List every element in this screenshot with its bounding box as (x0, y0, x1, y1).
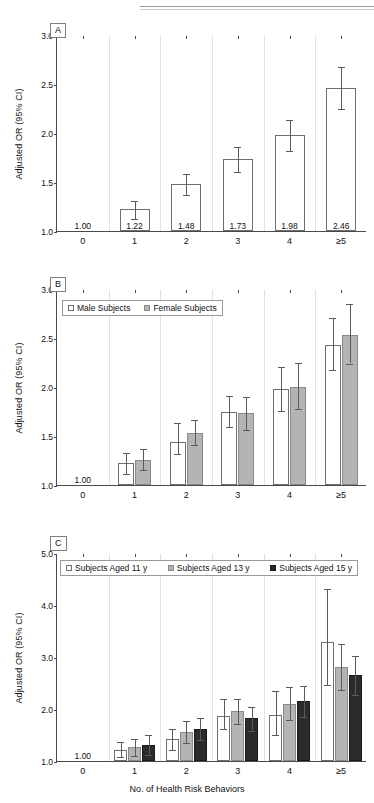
error-bar-cap (226, 427, 233, 428)
legend-item: Subjects Aged 15 y (270, 563, 352, 573)
error-bar-cap (220, 729, 227, 730)
group-separator (264, 554, 265, 761)
error-bar-cap (123, 474, 130, 475)
error-bar (224, 699, 225, 729)
error-bar (229, 396, 230, 427)
x-tick-label: 3 (235, 490, 240, 500)
error-bar (341, 644, 342, 690)
error-bar-cap (324, 589, 331, 590)
bar-value-label: 2.46 (333, 221, 350, 231)
error-bar-cap (286, 151, 293, 152)
bar-value-label: 1.48 (178, 221, 195, 231)
error-bar-cap (338, 67, 345, 68)
y-tick-mark (54, 183, 57, 184)
group-separator (315, 36, 316, 231)
error-bar-cap (295, 363, 302, 364)
legend-label: Subjects Aged 15 y (279, 563, 352, 573)
error-bar-cap (220, 699, 227, 700)
x-tick-mark (186, 554, 187, 557)
error-bar-cap (248, 707, 255, 708)
x-tick-label: 2 (184, 766, 189, 776)
error-bar (178, 423, 179, 453)
x-tick-mark (83, 554, 84, 557)
y-tick-mark (54, 437, 57, 438)
error-bar-cap (248, 731, 255, 732)
error-bar-cap (300, 686, 307, 687)
error-bar (200, 718, 201, 740)
legend-item: Male Subjects (68, 303, 130, 313)
error-bar-cap (338, 109, 345, 110)
x-tick-mark (135, 290, 136, 293)
x-tick-label: 4 (287, 236, 292, 246)
legend-swatch-gray (144, 305, 150, 311)
panel-label-b: B (50, 277, 66, 292)
error-bar (126, 453, 127, 475)
x-tick-label: 2 (184, 490, 189, 500)
error-bar-cap (174, 454, 181, 455)
x-tick-label: 0 (80, 766, 85, 776)
legend-swatch-white (68, 305, 74, 311)
error-bar-cap (329, 318, 336, 319)
group-separator (160, 36, 161, 231)
x-tick-mark (341, 36, 342, 39)
error-bar-cap (243, 397, 250, 398)
y-tick-mark (54, 232, 57, 233)
x-tick-label: 1 (132, 766, 137, 776)
error-bar-cap (140, 470, 147, 471)
error-bar (186, 721, 187, 743)
error-bar (290, 120, 291, 150)
error-bar-cap (145, 735, 152, 736)
x-tick-mark (290, 36, 291, 39)
group-separator (212, 554, 213, 761)
error-bar-cap (117, 742, 124, 743)
legend-label: Male Subjects (77, 303, 130, 313)
error-bar (252, 707, 253, 731)
error-bar-cap (140, 449, 147, 450)
x-tick-mark (341, 554, 342, 557)
error-bar-cap (278, 367, 285, 368)
error-bar (135, 201, 136, 220)
group-separator (109, 290, 110, 485)
error-bar (350, 304, 351, 364)
plot-area-c: 1.02.03.04.05.001234≥51.00 (56, 554, 366, 762)
panel-b: BAdjusted OR (95% CI)1.01.52.02.53.00123… (0, 272, 374, 522)
group-separator (109, 554, 110, 761)
error-bar (304, 686, 305, 717)
x-tick-mark (135, 36, 136, 39)
x-tick-label: ≥5 (336, 490, 346, 500)
error-bar-cap (117, 757, 124, 758)
legend-swatch-gray (168, 565, 174, 571)
error-bar-cap (174, 423, 181, 424)
plot-area-b: 1.01.52.02.53.001234≥51.00 (56, 290, 366, 486)
x-tick-label: ≥5 (336, 766, 346, 776)
error-bar-cap (226, 396, 233, 397)
y-tick-mark (54, 486, 57, 487)
bar-value-label: 1.00 (75, 751, 92, 761)
y-tick-mark (54, 762, 57, 763)
y-tick-mark (54, 85, 57, 86)
error-bar-cap (183, 721, 190, 722)
error-bar (135, 739, 136, 756)
error-bar-cap (234, 147, 241, 148)
bar-value-label: 1.00 (75, 475, 92, 485)
error-bar (195, 420, 196, 445)
error-bar-cap (123, 453, 130, 454)
x-tick-label: 3 (235, 236, 240, 246)
error-bar-cap (234, 172, 241, 173)
error-bar-cap (272, 691, 279, 692)
error-bar-cap (191, 420, 198, 421)
panel-c: CAdjusted OR (95% CI)1.02.03.04.05.00123… (0, 532, 374, 794)
error-bar-cap (183, 743, 190, 744)
error-bar-cap (243, 430, 250, 431)
error-bar-cap (234, 724, 241, 725)
x-tick-mark (341, 290, 342, 293)
group-separator (212, 36, 213, 231)
x-tick-mark (238, 290, 239, 293)
legend-swatch-dark (270, 565, 276, 571)
x-tick-mark (186, 290, 187, 293)
error-bar (341, 67, 342, 108)
error-bar-cap (286, 120, 293, 121)
plot-area-a: 1.01.52.02.53.001234≥51.001.221.481.731.… (56, 36, 366, 232)
x-tick-mark (238, 554, 239, 557)
group-separator (264, 290, 265, 485)
